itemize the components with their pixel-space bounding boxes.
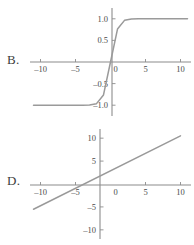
x-tick-label: 5 [143, 187, 147, 197]
y-tick-label: 5 [92, 156, 96, 166]
panel-d: D. –10–50510–10–5510 [0, 123, 194, 245]
y-tick-label: –10 [82, 225, 96, 235]
y-tick-label: 1.0 [97, 14, 108, 24]
y-tick-label: 0.5 [97, 35, 108, 45]
x-tick-label: –5 [70, 64, 80, 74]
panel-b: B. –10–50510–1.0–0.50.51.0 [0, 0, 194, 123]
x-tick-label: 10 [176, 187, 185, 197]
x-tick-label: 5 [143, 64, 147, 74]
x-tick-label: 0 [113, 64, 117, 74]
x-tick-label: 10 [176, 64, 185, 74]
x-tick-label: –10 [33, 187, 47, 197]
y-tick-label: –5 [87, 202, 97, 212]
data-curve [34, 136, 181, 209]
x-tick-label: –10 [33, 64, 47, 74]
y-tick-label: 10 [88, 133, 97, 143]
y-tick-label: –1.0 [92, 100, 108, 110]
panel-b-plot: –10–50510–1.0–0.50.51.0 [0, 0, 194, 123]
panel-d-plot: –10–50510–10–5510 [0, 123, 194, 245]
two-panel-graph-figure: B. –10–50510–1.0–0.50.51.0 D. –10–50510–… [0, 0, 194, 245]
x-tick-label: 0 [113, 187, 117, 197]
